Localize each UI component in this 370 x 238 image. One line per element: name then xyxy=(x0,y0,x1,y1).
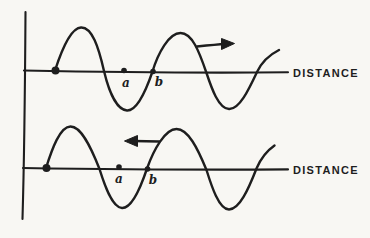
bottom-point-a-dot xyxy=(116,164,122,170)
top-point-b-label: b xyxy=(155,75,163,89)
bottom-wave-start-dot xyxy=(43,164,51,172)
top-point-b-dot xyxy=(150,69,156,75)
wave-diagram: a b DISTANCE a b DISTANCE xyxy=(0,0,370,238)
bottom-wave-panel: a b DISTANCE xyxy=(23,127,359,210)
bottom-point-a-label: a xyxy=(115,172,123,186)
vertical-axis xyxy=(23,12,26,219)
top-wave-panel: a b DISTANCE xyxy=(24,27,359,110)
wave-diagram-canvas: a b DISTANCE a b DISTANCE xyxy=(0,0,370,238)
right-arrow-icon xyxy=(197,39,235,50)
top-wave-curve xyxy=(55,27,279,110)
bottom-point-b-label: b xyxy=(149,173,157,187)
top-point-a-dot xyxy=(121,68,127,74)
top-distance-label: DISTANCE xyxy=(293,67,359,79)
left-arrow-icon xyxy=(125,136,160,147)
bottom-point-b-dot xyxy=(145,166,151,172)
top-point-a-label: a xyxy=(122,76,130,90)
bottom-distance-label: DISTANCE xyxy=(293,164,359,176)
top-distance-axis xyxy=(24,71,288,73)
bottom-distance-axis xyxy=(23,168,288,170)
top-wave-start-dot xyxy=(52,67,60,75)
